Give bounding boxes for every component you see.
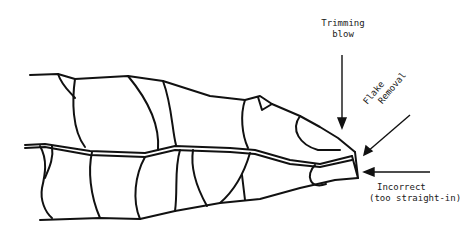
incorrect-label: Incorrect (too straight-in)	[369, 182, 461, 204]
flake-removal-arrow	[367, 115, 410, 152]
lower-outline	[40, 178, 358, 220]
middle-seam	[25, 144, 352, 164]
upper-outline	[30, 74, 355, 152]
trimming-blow-label: Trimming blow	[318, 18, 368, 40]
